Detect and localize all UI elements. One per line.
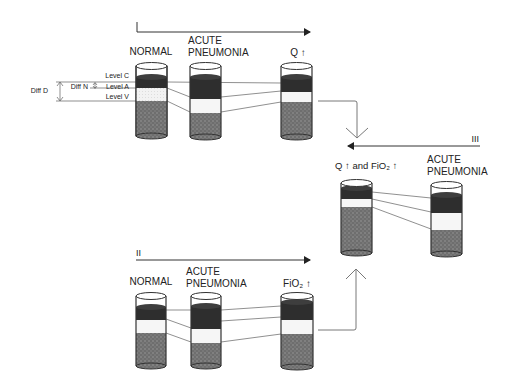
- label-pneumonia-i: PNEUMONIA: [188, 47, 249, 58]
- connector-i-to-iii: [318, 101, 368, 138]
- label-normal-i: NORMAL: [130, 46, 173, 57]
- label-normal-ii: NORMAL: [130, 276, 173, 287]
- label-pneumonia-iii: PNEUMONIA: [427, 166, 488, 177]
- cylinder-acute-pneumonia-iii: [431, 182, 462, 258]
- label-roman-ii: II: [136, 248, 141, 258]
- label-level-v: Level V: [106, 93, 130, 100]
- cylinder-q-and-fio2-up: [341, 180, 372, 257]
- label-level-c: Level C: [105, 72, 129, 79]
- panel-ii-connectors: [166, 306, 281, 342]
- label-q-and-fio2-up: Q ↑ and FiO₂ ↑: [335, 160, 397, 171]
- label-diff-n: Diff N: [71, 83, 88, 90]
- panel-iii-connectors: [372, 192, 431, 229]
- cylinder-fio2-up: [281, 293, 313, 371]
- panel-i-connectors: [167, 82, 281, 112]
- cylinder-q-up: [281, 63, 312, 141]
- panel-i-arrow: [137, 22, 310, 32]
- connector-ii-to-iii: [318, 269, 366, 330]
- label-acute-i: ACUTE: [188, 35, 222, 46]
- cylinder-acute-pneumonia-ii: [191, 293, 221, 370]
- oxygenation-diagram: NORMAL ACUTE PNEUMONIA Q ↑ Level C Level…: [0, 0, 515, 387]
- label-level-a: Level A: [106, 83, 129, 90]
- cylinder-normal-i: [136, 63, 167, 140]
- cylinder-normal-ii: [136, 293, 166, 370]
- label-acute-iii: ACUTE: [427, 154, 461, 165]
- label-pneumonia-ii: PNEUMONIA: [186, 278, 247, 289]
- label-fio2-up: FiO₂ ↑: [283, 278, 311, 289]
- cylinder-acute-pneumonia-i: [190, 63, 221, 141]
- label-acute-ii: ACUTE: [186, 266, 220, 277]
- label-roman-iii: III: [471, 134, 479, 144]
- label-diff-d: Diff D: [31, 87, 48, 94]
- label-q-up: Q ↑: [290, 47, 306, 58]
- diagram-canvas: NORMAL ACUTE PNEUMONIA Q ↑ Level C Level…: [0, 0, 515, 387]
